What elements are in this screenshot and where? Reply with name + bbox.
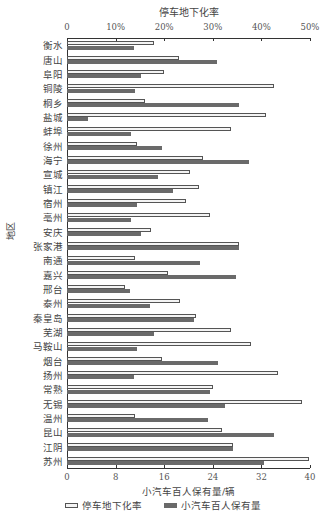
bar-underground-rate — [67, 142, 137, 146]
category-label: 蚌埠 — [43, 124, 63, 138]
legend-swatch-gray — [164, 503, 177, 508]
bar-car-ownership — [67, 246, 239, 250]
bar-underground-rate — [67, 127, 231, 131]
category-label: 昆山 — [43, 425, 63, 439]
category-label: 常熟 — [43, 382, 63, 396]
top-axis-line — [67, 38, 310, 39]
bar-underground-rate — [67, 400, 302, 404]
bar-car-ownership — [67, 318, 194, 322]
bar-underground-rate — [67, 242, 239, 246]
bottom-tick-label: 40 — [305, 472, 316, 482]
bar-underground-rate — [67, 185, 199, 189]
bar-underground-rate — [67, 84, 274, 88]
bar-underground-rate — [67, 256, 135, 260]
legend-label: 停车地下化率 — [82, 498, 142, 512]
category-label: 海宁 — [43, 153, 63, 167]
legend-label: 小汽车百人保有量 — [181, 498, 261, 512]
category-label: 扬州 — [43, 368, 63, 382]
bar-car-ownership — [67, 433, 274, 437]
bar-car-ownership — [67, 132, 131, 136]
bar-car-ownership — [67, 390, 210, 394]
bar-car-ownership — [67, 232, 141, 236]
category-label: 无锡 — [43, 397, 63, 411]
category-label: 衡水 — [43, 38, 63, 52]
bottom-tick-mark — [116, 465, 117, 468]
legend-item-underground-rate: 停车地下化率 — [65, 498, 142, 512]
bar-underground-rate — [67, 156, 203, 160]
category-label: 芜湖 — [43, 325, 63, 339]
bar-underground-rate — [67, 70, 164, 74]
bar-car-ownership — [67, 361, 218, 365]
legend-swatch-white — [65, 503, 78, 508]
category-label: 邢台 — [43, 282, 63, 296]
top-tick-mark — [310, 38, 311, 41]
bottom-tick-label: 32 — [256, 472, 267, 482]
bottom-tick-label: 16 — [159, 472, 170, 482]
category-label: 南通 — [43, 253, 63, 267]
bar-car-ownership — [67, 189, 173, 193]
x-axis-label: 小汽车百人保有量/辆 — [67, 484, 310, 498]
bottom-tick-mark — [310, 465, 311, 468]
bar-car-ownership — [67, 418, 208, 422]
bottom-tick-mark — [213, 465, 214, 468]
category-label: 温州 — [43, 411, 63, 425]
category-label: 徐州 — [43, 139, 63, 153]
bar-car-ownership — [67, 74, 141, 78]
legend-item-car-ownership: 小汽车百人保有量 — [164, 498, 261, 512]
bar-underground-rate — [67, 99, 145, 103]
bar-underground-rate — [67, 314, 196, 318]
top-tick-label: 30% — [203, 22, 222, 32]
bar-chart: 停车地下化率 010%20%30%40%50% 衡水唐山阜阳铜陵桐乡盐城蚌埠徐州… — [0, 0, 325, 521]
category-label: 苏州 — [43, 454, 63, 468]
bar-car-ownership — [67, 375, 134, 379]
bar-underground-rate — [67, 299, 180, 303]
bar-underground-rate — [67, 357, 162, 361]
category-label: 马鞍山 — [33, 339, 63, 353]
bottom-tick-mark — [67, 465, 68, 468]
category-label: 江阴 — [43, 440, 63, 454]
bar-underground-rate — [67, 213, 210, 217]
bar-car-ownership — [67, 160, 249, 164]
category-label: 宿州 — [43, 196, 63, 210]
bar-car-ownership — [67, 89, 135, 93]
bottom-tick-label: 0 — [64, 472, 69, 482]
category-label: 唐山 — [43, 53, 63, 67]
bar-underground-rate — [67, 342, 251, 346]
bar-car-ownership — [67, 447, 233, 451]
category-label: 张家港 — [33, 239, 63, 253]
bar-underground-rate — [67, 414, 135, 418]
top-tick-label: 50% — [301, 22, 320, 32]
bar-car-ownership — [67, 332, 154, 336]
bottom-tick-label: 8 — [113, 472, 118, 482]
bar-car-ownership — [67, 103, 239, 107]
bar-car-ownership — [67, 218, 131, 222]
bar-underground-rate — [67, 371, 278, 375]
category-label: 桐乡 — [43, 96, 63, 110]
bar-underground-rate — [67, 285, 125, 289]
bottom-tick-label: 24 — [207, 472, 218, 482]
bar-car-ownership — [67, 117, 88, 121]
bar-car-ownership — [67, 175, 158, 179]
bar-underground-rate — [67, 113, 266, 117]
bar-underground-rate — [67, 199, 186, 203]
category-label: 镇江 — [43, 182, 63, 196]
bar-car-ownership — [67, 146, 162, 150]
top-tick-label: 10% — [106, 22, 125, 32]
bar-car-ownership — [67, 203, 137, 207]
bar-underground-rate — [67, 385, 213, 389]
bar-underground-rate — [67, 328, 231, 332]
bar-car-ownership — [67, 289, 130, 293]
category-label: 泰州 — [43, 296, 63, 310]
bar-underground-rate — [67, 56, 179, 60]
top-tick-label: 20% — [155, 22, 174, 32]
category-label: 秦皇岛 — [33, 311, 63, 325]
bar-car-ownership — [67, 347, 137, 351]
bar-car-ownership — [67, 261, 200, 265]
legend: 停车地下化率 小汽车百人保有量 — [0, 498, 325, 512]
category-label: 亳州 — [43, 210, 63, 224]
y-axis-label: 地区 — [4, 222, 17, 240]
bar-underground-rate — [67, 271, 168, 275]
category-label: 烟台 — [43, 354, 63, 368]
bar-underground-rate — [67, 428, 222, 432]
category-label: 盐城 — [43, 110, 63, 124]
